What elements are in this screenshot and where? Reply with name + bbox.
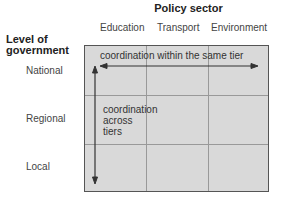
vertical-arrow: [93, 66, 98, 184]
arrows: [0, 0, 292, 198]
horizontal-arrow: [100, 64, 258, 69]
